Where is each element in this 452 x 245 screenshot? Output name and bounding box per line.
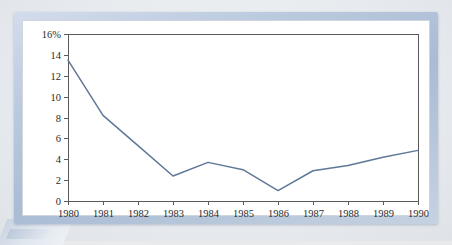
- y-axis: 0246810121416%: [42, 29, 68, 207]
- x-axis-tick-label: 1983: [163, 208, 184, 218]
- x-axis-tick-label: 1984: [198, 208, 220, 218]
- y-axis-tick-label: 16%: [42, 29, 62, 40]
- x-axis-tick-label: 1988: [338, 208, 359, 218]
- x-axis-tick-label: 1980: [58, 208, 79, 218]
- y-axis-tick-label: 2: [56, 175, 61, 186]
- x-axis-tick-label: 1989: [373, 208, 394, 218]
- y-axis-tick-label: 8: [56, 113, 61, 124]
- x-axis-tick-label: 1982: [128, 208, 149, 218]
- chart-svg: 0246810121416% 1980198119821983198419851…: [23, 21, 431, 217]
- y-axis-tick-label: 14: [51, 50, 62, 61]
- decorative-ribbon-accent: [6, 229, 50, 239]
- y-axis-tick-label: 6: [56, 133, 61, 144]
- x-axis-tick-label: 1990: [408, 208, 429, 218]
- y-axis-tick-label: 10: [51, 92, 62, 103]
- x-axis-tick-label: 1986: [268, 208, 289, 218]
- chart-panel: 0246810121416% 1980198119821983198419851…: [22, 20, 430, 216]
- x-axis: 1980198119821983198419851986198719881989…: [58, 201, 429, 217]
- plot-frame: [68, 34, 418, 201]
- data-line: [68, 60, 418, 190]
- y-axis-tick-label: 12: [51, 71, 62, 82]
- y-axis-tick-label: 0: [56, 196, 61, 207]
- x-axis-tick-label: 1981: [93, 208, 114, 218]
- line-chart: 0246810121416% 1980198119821983198419851…: [23, 21, 431, 217]
- y-axis-tick-label: 4: [56, 154, 62, 165]
- data-series: [68, 60, 418, 190]
- x-axis-tick-label: 1987: [303, 208, 324, 218]
- x-axis-tick-label: 1985: [233, 208, 254, 218]
